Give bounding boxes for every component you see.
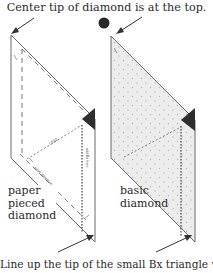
bottom-caption: Line up the tip of the small Bx triangle… (0, 258, 213, 271)
label-line: paper (8, 185, 56, 198)
basic-diamond (111, 36, 195, 242)
label-add-bx: add Bx here (85, 148, 89, 167)
arrow-right-bottom (156, 235, 192, 252)
label-line: basic (120, 185, 168, 198)
center-tip-dot (99, 18, 110, 29)
arrow-left-top (11, 18, 34, 34)
paper-pieced-diamond-label: paper pieced diamond (8, 185, 56, 223)
diagram-canvas: LE22 add Bx here seam allowance (0, 0, 213, 273)
label-line: diamond (120, 198, 168, 211)
basic-diamond-label: basic diamond (120, 185, 168, 210)
label-line: diamond (8, 210, 56, 223)
arrow-right-top (116, 17, 142, 34)
arrow-left-bottom (58, 235, 94, 252)
